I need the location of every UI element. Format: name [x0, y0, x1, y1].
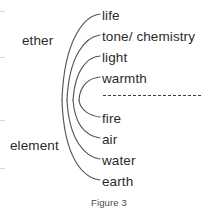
item-label-life: life	[102, 9, 120, 23]
figure-caption: Figure 3	[0, 197, 218, 208]
item-label-earth: earth	[102, 175, 133, 189]
item-label-tone: tone/ chemistry	[102, 30, 195, 44]
scan-artifact	[0, 168, 5, 169]
scan-artifact	[0, 57, 5, 58]
item-label-warmth: warmth	[102, 72, 147, 86]
scan-artifact	[0, 120, 5, 121]
item-label-air: air	[102, 133, 117, 147]
group-label-element: element	[10, 138, 59, 153]
item-label-light: light	[102, 51, 127, 65]
arc-fire	[79, 100, 100, 117]
item-label-fire: fire	[102, 112, 121, 126]
item-label-water: water	[102, 154, 136, 168]
scan-artifact	[0, 11, 5, 12]
group-divider	[103, 95, 201, 96]
arc-air	[73, 100, 100, 138]
group-label-ether: ether	[22, 33, 53, 48]
figure-diagram: ether element life tone/ chemistry light…	[0, 0, 218, 222]
arc-warmth	[79, 77, 100, 100]
